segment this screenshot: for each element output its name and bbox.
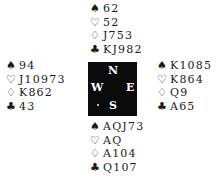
north-hearts: 52: [103, 16, 119, 30]
south-spades-row: ♠AQJ73: [90, 120, 144, 134]
east-spades-row: ♠K1085: [157, 59, 212, 73]
east-clubs-row: ♣A65: [157, 100, 212, 114]
south-diamonds: A104: [103, 147, 137, 161]
east-spades: K1085: [170, 59, 212, 73]
spade-icon: ♠: [157, 59, 170, 73]
west-hearts-row: ♡J10973: [6, 73, 66, 87]
north-diamonds: J753: [103, 29, 133, 43]
compass-box: N W E S: [88, 62, 137, 116]
diamond-icon: ♢: [90, 29, 103, 43]
south-hearts-row: ♡AQ: [90, 134, 144, 148]
east-hearts: K864: [170, 73, 204, 87]
north-hearts-row: ♡52: [90, 16, 143, 30]
south-hearts: AQ: [103, 134, 122, 148]
west-clubs: 43: [19, 100, 35, 114]
dealer-dot-icon: [97, 104, 99, 106]
east-hand: ♠K1085 ♡K864 ♢Q9 ♣A65: [157, 59, 212, 113]
north-spades-row: ♠62: [90, 2, 143, 16]
west-hearts: J10973: [19, 73, 66, 87]
spade-icon: ♠: [6, 59, 19, 73]
north-clubs: KJ982: [103, 43, 143, 57]
heart-icon: ♡: [90, 134, 103, 148]
west-spades-row: ♠94: [6, 59, 66, 73]
diamond-icon: ♢: [157, 86, 170, 100]
north-clubs-row: ♣KJ982: [90, 43, 143, 57]
west-diamonds: K862: [19, 86, 53, 100]
compass-east-label: E: [126, 81, 134, 94]
east-clubs: A65: [170, 100, 196, 114]
west-clubs-row: ♣43: [6, 100, 66, 114]
west-diamonds-row: ♢K862: [6, 86, 66, 100]
diamond-icon: ♢: [6, 86, 19, 100]
compass-west-label: W: [91, 81, 103, 94]
north-diamonds-row: ♢J753: [90, 29, 143, 43]
club-icon: ♣: [6, 100, 19, 114]
east-hearts-row: ♡K864: [157, 73, 212, 87]
compass-south-label: S: [109, 99, 117, 112]
spade-icon: ♠: [90, 120, 103, 134]
club-icon: ♣: [90, 161, 103, 175]
heart-icon: ♡: [157, 73, 170, 87]
west-hand: ♠94 ♡J10973 ♢K862 ♣43: [6, 59, 66, 113]
south-spades: AQJ73: [103, 120, 144, 134]
south-diamonds-row: ♢A104: [90, 147, 144, 161]
heart-icon: ♡: [90, 16, 103, 30]
south-clubs: Q107: [103, 161, 138, 175]
south-clubs-row: ♣Q107: [90, 161, 144, 175]
north-spades: 62: [103, 2, 119, 16]
spade-icon: ♠: [90, 2, 103, 16]
west-spades: 94: [19, 59, 35, 73]
diamond-icon: ♢: [90, 147, 103, 161]
club-icon: ♣: [157, 100, 170, 114]
heart-icon: ♡: [6, 73, 19, 87]
east-diamonds: Q9: [170, 86, 188, 100]
compass-north-label: N: [108, 64, 118, 77]
club-icon: ♣: [90, 43, 103, 57]
east-diamonds-row: ♢Q9: [157, 86, 212, 100]
south-hand: ♠AQJ73 ♡AQ ♢A104 ♣Q107: [90, 120, 144, 174]
north-hand: ♠62 ♡52 ♢J753 ♣KJ982: [90, 2, 143, 56]
